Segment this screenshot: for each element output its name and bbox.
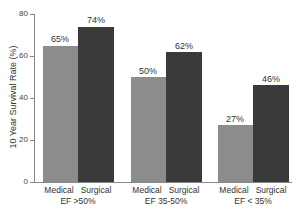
bar-value-label: 46% bbox=[253, 74, 289, 84]
bar-value-label: 50% bbox=[130, 66, 166, 76]
x-group-label: EF 35-50% bbox=[130, 196, 202, 206]
x-group-label: EF >50% bbox=[42, 196, 114, 206]
bar-surgical-ef-gt-50 bbox=[78, 27, 114, 182]
x-category-label: Medical bbox=[41, 185, 77, 195]
x-category-label: Surgical bbox=[253, 185, 289, 195]
x-category-label: Surgical bbox=[166, 185, 202, 195]
bar-value-label: 74% bbox=[78, 15, 114, 25]
y-axis bbox=[34, 14, 35, 182]
y-tick bbox=[30, 182, 34, 183]
y-tick bbox=[30, 56, 34, 57]
bar-surgical-ef-lt-35 bbox=[253, 85, 289, 182]
bar-surgical-ef-35-50 bbox=[166, 52, 202, 182]
y-tick-label: 80 bbox=[8, 9, 28, 18]
y-tick bbox=[30, 140, 34, 141]
bar-value-label: 27% bbox=[217, 114, 253, 124]
bar-value-label: 62% bbox=[166, 41, 202, 51]
bar-value-label: 65% bbox=[42, 34, 78, 44]
x-category-label: Medical bbox=[216, 185, 252, 195]
y-tick-label: 20 bbox=[8, 135, 28, 144]
bar-medical-ef-35-50 bbox=[131, 77, 166, 182]
y-tick bbox=[30, 98, 34, 99]
x-axis bbox=[34, 182, 292, 183]
y-tick bbox=[30, 14, 34, 15]
y-tick-label: 0 bbox=[8, 177, 28, 186]
x-category-label: Surgical bbox=[78, 185, 114, 195]
y-tick-label: 40 bbox=[8, 93, 28, 102]
survival-bar-chart: 10 Year Survival Rate (%) 0 20 40 60 80 … bbox=[0, 0, 299, 209]
x-category-label: Medical bbox=[129, 185, 165, 195]
bar-medical-ef-lt-35 bbox=[218, 125, 253, 182]
bar-medical-ef-gt-50 bbox=[43, 46, 78, 183]
y-tick-label: 60 bbox=[8, 51, 28, 60]
x-group-label: EF < 35% bbox=[217, 196, 289, 206]
